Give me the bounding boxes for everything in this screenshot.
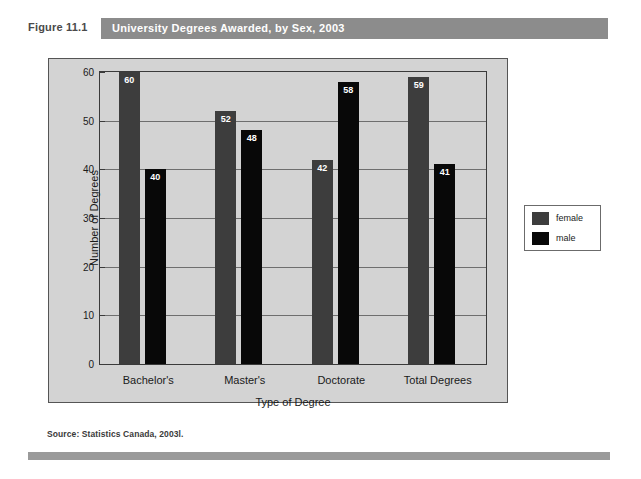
bar-male-2: 58 bbox=[338, 82, 359, 364]
figure-title: University Degrees Awarded, by Sex, 2003 bbox=[112, 22, 345, 34]
bar-value-label: 52 bbox=[215, 114, 236, 124]
y-tick-label: 10 bbox=[72, 310, 94, 321]
chart-panel: Number of Degrees 0102030405060 60405248… bbox=[48, 58, 508, 403]
y-tick-mark bbox=[100, 315, 105, 316]
y-tick-label: 30 bbox=[72, 213, 94, 224]
bar-female-1: 52 bbox=[215, 111, 236, 364]
plot-area: Number of Degrees 0102030405060 60405248… bbox=[99, 71, 487, 365]
bar-value-label: 48 bbox=[241, 133, 262, 143]
legend-label-female: female bbox=[556, 213, 583, 223]
bar-value-label: 60 bbox=[119, 75, 140, 85]
x-tick-label-2: Doctorate bbox=[317, 374, 365, 386]
legend-label-male: male bbox=[556, 233, 576, 243]
y-tick-label: 50 bbox=[72, 115, 94, 126]
y-tick-mark bbox=[100, 169, 105, 170]
bar-value-label: 58 bbox=[338, 85, 359, 95]
figure-header: Figure 11.1 University Degrees Awarded, … bbox=[28, 18, 608, 40]
y-tick-mark bbox=[100, 72, 105, 73]
bar-female-0: 60 bbox=[119, 72, 140, 364]
y-tick-mark bbox=[100, 218, 105, 219]
legend-swatch-female-icon bbox=[532, 212, 549, 225]
bar-female-3: 59 bbox=[408, 77, 429, 364]
footer-bar bbox=[28, 452, 610, 460]
bar-value-label: 40 bbox=[145, 172, 166, 182]
x-tick-label-3: Total Degrees bbox=[404, 374, 472, 386]
y-tick-label: 20 bbox=[72, 261, 94, 272]
x-tick-label-0: Bachelor's bbox=[123, 374, 174, 386]
bar-male-1: 48 bbox=[241, 130, 262, 364]
figure-title-bar: University Degrees Awarded, by Sex, 2003 bbox=[101, 18, 608, 39]
figure-number: Figure 11.1 bbox=[28, 21, 88, 33]
bar-value-label: 41 bbox=[434, 167, 455, 177]
y-tick-label: 0 bbox=[72, 359, 94, 370]
bar-female-2: 42 bbox=[312, 160, 333, 364]
legend-swatch-male-icon bbox=[532, 232, 549, 245]
y-tick-label: 40 bbox=[72, 164, 94, 175]
bar-male-3: 41 bbox=[434, 164, 455, 364]
y-tick-mark bbox=[100, 267, 105, 268]
bar-male-0: 40 bbox=[145, 169, 166, 364]
bar-value-label: 42 bbox=[312, 163, 333, 173]
bar-value-label: 59 bbox=[408, 80, 429, 90]
x-axis-title: Type of Degree bbox=[100, 396, 486, 408]
chart-legend: female male bbox=[524, 205, 601, 251]
y-tick-mark bbox=[100, 121, 105, 122]
y-tick-label: 60 bbox=[72, 67, 94, 78]
source-note: Source: Statistics Canada, 2003l. bbox=[47, 429, 184, 439]
y-tick-mark bbox=[100, 364, 105, 365]
x-tick-label-1: Master's bbox=[224, 374, 265, 386]
